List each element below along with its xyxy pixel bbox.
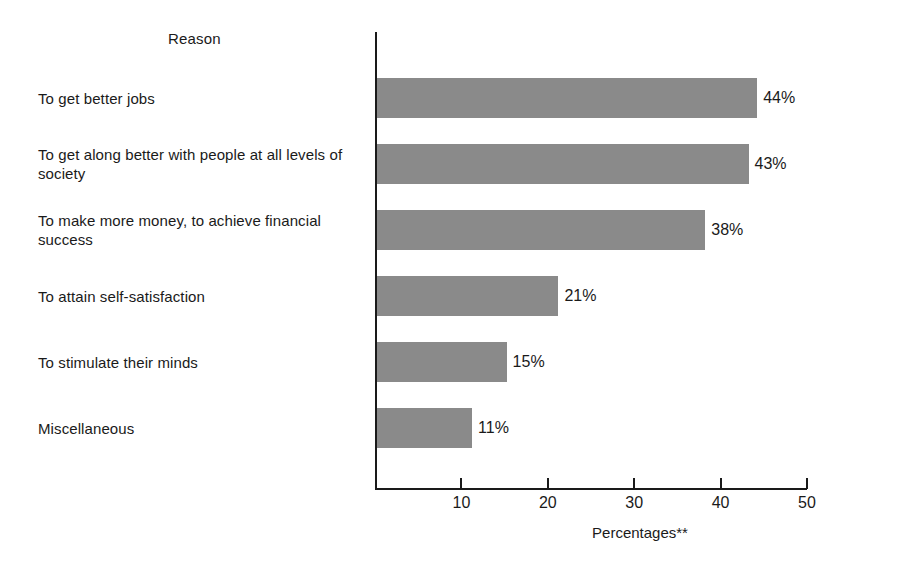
bar-value-label: 44%	[757, 89, 795, 107]
x-tick-label: 20	[539, 494, 557, 512]
bar	[377, 144, 749, 184]
category-label: To get better jobs	[38, 89, 368, 108]
bar-value-label: 15%	[507, 353, 545, 371]
category-label: To stimulate their minds	[38, 353, 368, 372]
plot-area: 44%43%38%21%15%11% 1020304050	[375, 32, 807, 490]
bar	[377, 210, 705, 250]
x-tick-mark	[720, 478, 722, 489]
x-tick-label: 40	[712, 494, 730, 512]
category-label: To get along better with people at all l…	[38, 145, 368, 183]
x-tick-label: 50	[798, 494, 816, 512]
bar-value-label: 38%	[705, 221, 743, 239]
x-tick-mark	[460, 478, 462, 489]
chart-page: Reason 44%43%38%21%15%11% 1020304050 To …	[0, 0, 907, 574]
bar-value-label: 21%	[558, 287, 596, 305]
bar	[377, 276, 558, 316]
bar-row: 15%	[377, 342, 577, 382]
x-tick-mark	[806, 478, 808, 489]
category-label: To attain self-satisfaction	[38, 287, 368, 306]
x-axis-line	[375, 488, 807, 490]
x-tick-label: 10	[452, 494, 470, 512]
bar-row: 11%	[377, 408, 542, 448]
bar-row: 44%	[377, 78, 827, 118]
x-tick-mark	[633, 478, 635, 489]
bar	[377, 78, 757, 118]
bar-value-label: 11%	[472, 419, 509, 437]
bar	[377, 408, 472, 448]
category-label: Miscellaneous	[38, 419, 368, 438]
x-tick-mark	[547, 478, 549, 489]
category-axis-title: Reason	[168, 30, 221, 47]
category-label: To make more money, to achieve financial…	[38, 211, 368, 249]
x-axis-title: Percentages**	[592, 524, 688, 541]
bar-row: 43%	[377, 144, 819, 184]
bar-value-label: 43%	[749, 155, 787, 173]
x-tick-label: 30	[625, 494, 643, 512]
bar	[377, 342, 507, 382]
bar-row: 21%	[377, 276, 628, 316]
bar-row: 38%	[377, 210, 775, 250]
